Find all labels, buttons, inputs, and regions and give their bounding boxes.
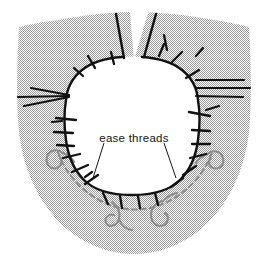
ease-threads-label: ease threads	[99, 132, 169, 144]
ease-threads-diagram: ease threads	[0, 0, 268, 265]
armhole-opening	[65, 57, 200, 195]
diagram-canvas: ease threads	[0, 0, 268, 265]
